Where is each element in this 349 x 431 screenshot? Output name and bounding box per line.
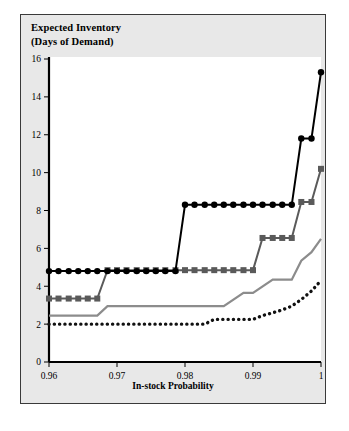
dark-gray-square-series-point bbox=[182, 267, 188, 273]
chart-figure: Expected Inventory (Days of Demand) 0246… bbox=[20, 14, 326, 404]
black-circle-series-point bbox=[172, 268, 178, 274]
y-tick-label: 14 bbox=[32, 92, 42, 102]
x-tick-label: 1 bbox=[319, 371, 324, 381]
black-circle-series-point bbox=[289, 202, 295, 208]
black-circle-series-point bbox=[250, 202, 256, 208]
black-circle-series-point bbox=[221, 202, 227, 208]
black-circle-series-point bbox=[240, 202, 246, 208]
dark-gray-square-series-point bbox=[260, 235, 266, 241]
black-circle-series-point bbox=[94, 268, 100, 274]
dark-gray-square-series-point bbox=[202, 267, 208, 273]
y-tick-label: 4 bbox=[36, 282, 41, 292]
y-tick-label: 10 bbox=[32, 168, 42, 178]
black-circle-series-point bbox=[279, 202, 285, 208]
black-circle-series-point bbox=[270, 202, 276, 208]
black-circle-series-point bbox=[230, 202, 236, 208]
dark-gray-square-series-point bbox=[221, 267, 227, 273]
dark-gray-square-series-point bbox=[308, 199, 314, 205]
y-tick-label: 12 bbox=[32, 130, 42, 140]
y-tick-label: 8 bbox=[36, 206, 41, 216]
dark-gray-square-series-point bbox=[66, 296, 72, 302]
black-circle-series-point bbox=[259, 202, 265, 208]
dark-gray-square-series-point bbox=[211, 267, 217, 273]
plot-content: 02468101214160.960.970.980.991 bbox=[32, 54, 325, 381]
x-tick-label: 0.98 bbox=[177, 371, 194, 381]
dark-gray-square-series-point bbox=[94, 296, 100, 302]
black-circle-series-point bbox=[75, 268, 81, 274]
chart-plot-area: 02468101214160.960.970.980.991 bbox=[21, 15, 327, 405]
dark-gray-square-series-point bbox=[56, 296, 62, 302]
black-circle-series-point bbox=[202, 202, 208, 208]
dark-gray-square-series-point bbox=[298, 199, 304, 205]
black-circle-series-point bbox=[182, 202, 188, 208]
dark-gray-square-series-point bbox=[318, 166, 324, 172]
black-circle-series-point bbox=[66, 268, 72, 274]
black-circle-series-point bbox=[85, 268, 91, 274]
black-circle-series-point bbox=[46, 268, 52, 274]
y-tick-label: 2 bbox=[36, 320, 41, 330]
dark-gray-square-series-point bbox=[75, 296, 81, 302]
x-tick-label: 0.96 bbox=[41, 371, 58, 381]
dark-gray-square-series-point bbox=[240, 267, 246, 273]
black-circle-series-point bbox=[211, 202, 217, 208]
y-tick-label: 16 bbox=[32, 54, 42, 64]
black-circle-series-point bbox=[318, 69, 324, 75]
black-circle-series-point bbox=[143, 268, 149, 274]
dark-gray-square-series-point bbox=[279, 235, 285, 241]
black-circle-series-point bbox=[134, 268, 140, 274]
black-circle-series-point bbox=[153, 268, 159, 274]
dark-gray-square-series-point bbox=[230, 267, 236, 273]
dark-gray-square-series-point bbox=[46, 296, 52, 302]
dark-gray-square-series-point bbox=[85, 296, 91, 302]
black-circle-series-point bbox=[298, 135, 304, 141]
x-axis-label: In-stock Probability bbox=[21, 381, 325, 391]
black-circle-series-point bbox=[114, 268, 120, 274]
y-tick-label: 6 bbox=[36, 244, 41, 254]
dark-gray-square-series-point bbox=[270, 235, 276, 241]
black-circle-series-point bbox=[162, 268, 168, 274]
y-tick-label: 0 bbox=[36, 357, 41, 367]
dark-gray-square-series-point bbox=[250, 267, 256, 273]
x-tick-label: 0.97 bbox=[109, 371, 126, 381]
black-circle-series-point bbox=[123, 268, 129, 274]
dark-gray-square-series-point bbox=[289, 235, 295, 241]
black-circle-series-point bbox=[308, 135, 314, 141]
x-tick-label: 0.99 bbox=[245, 371, 262, 381]
dark-gray-square-series-point bbox=[192, 267, 198, 273]
black-circle-series-point bbox=[55, 268, 61, 274]
black-circle-series-point bbox=[191, 202, 197, 208]
black-circle-series-point bbox=[104, 268, 110, 274]
